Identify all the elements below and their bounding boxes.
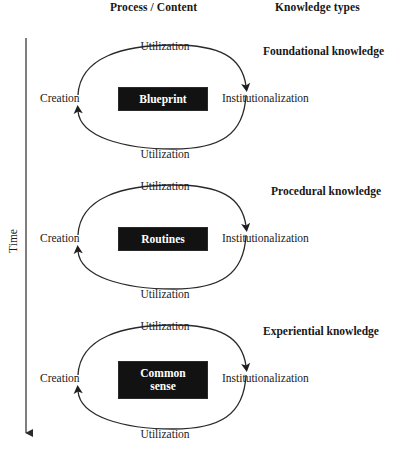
diagram-canvas: Process / Content Knowledge types Time <box>0 0 401 458</box>
knowledge-type-label-experiential: Experiential knowledge <box>263 325 379 337</box>
center-box-line-2: sense <box>150 380 176 392</box>
cycle-block-foundational: Utilization Utilization Creation Institu… <box>0 33 401 173</box>
utilization-label-bottom: Utilization <box>105 288 225 300</box>
center-box-common-sense: Common sense <box>118 361 208 399</box>
utilization-label-top: Utilization <box>105 320 225 332</box>
institutionalization-label: Institutionalization <box>222 232 309 244</box>
utilization-label-top: Utilization <box>105 40 225 52</box>
utilization-label-top: Utilization <box>105 180 225 192</box>
institutionalization-label: Institutionalization <box>222 92 309 104</box>
center-box-routines: Routines <box>118 227 208 251</box>
utilization-label-bottom: Utilization <box>105 428 225 440</box>
creation-label: Creation <box>40 232 80 244</box>
center-box-blueprint: Blueprint <box>118 87 208 111</box>
creation-label: Creation <box>40 92 80 104</box>
cycle-block-procedural: Utilization Utilization Creation Institu… <box>0 173 401 313</box>
creation-label: Creation <box>40 372 80 384</box>
utilization-label-bottom: Utilization <box>105 148 225 160</box>
column-header-knowledge-types: Knowledge types <box>275 1 360 13</box>
knowledge-type-label-procedural: Procedural knowledge <box>271 185 381 197</box>
column-header-process-content: Process / Content <box>110 1 197 13</box>
cycle-block-experiential: Utilization Utilization Creation Institu… <box>0 313 401 453</box>
institutionalization-label: Institutionalization <box>222 372 309 384</box>
knowledge-type-label-foundational: Foundational knowledge <box>263 45 384 57</box>
center-box-line-1: Common <box>140 367 185 379</box>
